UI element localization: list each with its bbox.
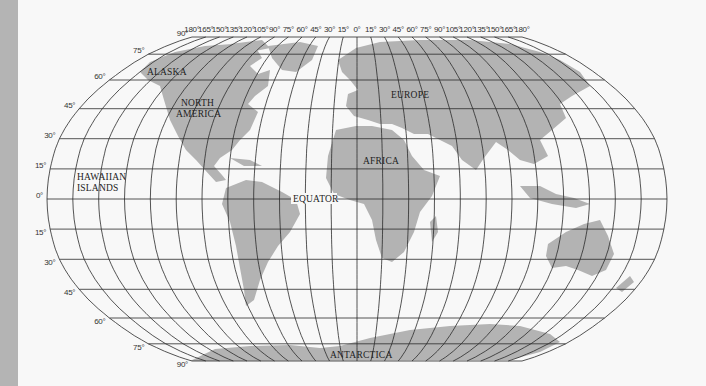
label-north-america-line2: AMERICA <box>176 109 221 119</box>
label-africa: AFRICA <box>363 156 399 166</box>
label-antarctica: ANTARCTICA <box>330 350 392 360</box>
longitude-label: 30° <box>324 25 335 34</box>
longitude-label: 45° <box>393 25 404 34</box>
label-hawaii-line1: HAWAIIAN <box>77 172 126 182</box>
latitude-label-south: 60° <box>94 317 105 326</box>
caribbean-shape <box>230 158 262 166</box>
latitude-label-north: 45° <box>64 101 75 110</box>
longitude-label: 180° <box>514 25 529 34</box>
longitude-label: 90° <box>434 25 445 34</box>
longitude-label: 90° <box>269 25 280 34</box>
latitude-label-north: 75° <box>133 46 144 55</box>
latitude-label-north: 90° <box>177 29 188 38</box>
longitude-label: 60° <box>406 25 417 34</box>
latitude-label-south: 30° <box>44 258 55 267</box>
latitude-label-south: 90° <box>177 360 188 369</box>
label-alaska: ALASKA <box>147 67 187 77</box>
label-europe: EUROPE <box>391 90 429 100</box>
latitude-label-north: 15° <box>35 161 46 170</box>
latitude-label-north: 60° <box>94 72 105 81</box>
land-masses <box>140 40 634 361</box>
longitude-label: 105° <box>253 25 268 34</box>
latitude-label-south: 15° <box>35 228 46 237</box>
longitude-label: 15° <box>365 25 376 34</box>
longitude-label: 0° <box>353 25 360 34</box>
australia-shape <box>546 220 614 276</box>
world-map: 180°165°150°135°120°105°90°75°60°45°30°1… <box>0 0 706 386</box>
longitude-label: 15° <box>338 25 349 34</box>
label-equator: EQUATOR <box>293 194 339 204</box>
longitude-label: 75° <box>283 25 294 34</box>
longitude-label: 45° <box>310 25 321 34</box>
label-hawaii-line2: ISLANDS <box>77 183 119 193</box>
latitude-label-north: 30° <box>44 131 55 140</box>
latitude-label-north: 0° <box>36 191 43 200</box>
label-north-america-line1: NORTH <box>181 98 214 108</box>
indonesia-shape <box>520 186 590 208</box>
longitude-label: 60° <box>296 25 307 34</box>
longitude-label: 75° <box>420 25 431 34</box>
latitude-label-south: 75° <box>133 343 144 352</box>
longitude-label: 30° <box>379 25 390 34</box>
latitude-label-south: 45° <box>64 288 75 297</box>
